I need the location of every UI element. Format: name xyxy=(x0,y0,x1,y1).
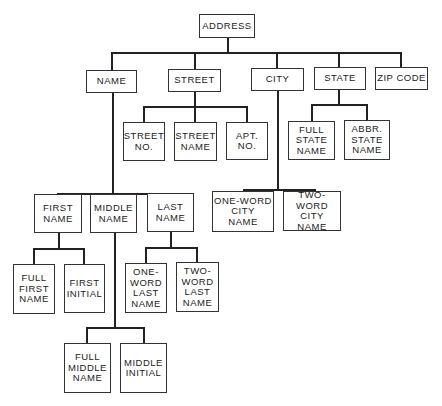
connector xyxy=(86,327,88,344)
node-two-word-last-name: TWO- WORD LAST NAME xyxy=(176,262,219,312)
node-abbr-state-name: ABBR. STATE NAME xyxy=(344,120,390,160)
node-full-first-name: FULL FIRST NAME xyxy=(13,264,55,314)
connector xyxy=(338,89,340,105)
node-full-middle-name: FULL MIDDLE NAME xyxy=(64,343,111,393)
connector xyxy=(277,90,279,190)
connector xyxy=(194,106,196,122)
connector xyxy=(311,104,367,106)
node-state: STATE xyxy=(314,67,366,90)
connector xyxy=(276,52,278,68)
node-zip-code: ZIP CODE xyxy=(375,67,428,90)
node-one-word-city-name: ONE-WORD CITY NAME xyxy=(212,191,274,232)
node-middle-initial: MIDDLE INITIAL xyxy=(120,343,167,393)
node-middle-name: MIDDLE NAME xyxy=(90,194,137,233)
node-street-name: STREET NAME xyxy=(174,122,217,161)
node-first-initial: FIRST INITIAL xyxy=(64,264,105,313)
connector xyxy=(145,247,147,263)
connector xyxy=(33,248,84,250)
connector xyxy=(83,248,85,264)
node-first-name: FIRST NAME xyxy=(34,194,82,233)
node-apt-no: APT. NO. xyxy=(226,122,268,160)
node-street-no: STREET NO. xyxy=(123,122,165,161)
connector xyxy=(86,327,144,329)
connector xyxy=(194,91,196,107)
connector xyxy=(145,247,197,249)
node-street: STREET xyxy=(168,69,221,92)
connector xyxy=(114,232,116,328)
connector xyxy=(366,104,368,121)
connector xyxy=(112,92,114,193)
connector xyxy=(33,248,35,264)
node-last-name: LAST NAME xyxy=(147,193,194,232)
node-one-word-last-name: ONE- WORD LAST NAME xyxy=(125,263,167,313)
connector xyxy=(338,52,340,67)
node-two-word-city-name: TWO-WORD CITY NAME xyxy=(283,191,341,231)
connector xyxy=(227,37,229,53)
connector xyxy=(143,327,145,344)
connector xyxy=(170,231,172,248)
connector xyxy=(311,104,313,121)
connector xyxy=(400,52,402,67)
connector xyxy=(194,52,196,69)
address-hierarchy-diagram: ADDRESS NAME STREET CITY STATE ZIP CODE … xyxy=(0,0,442,406)
node-address: ADDRESS xyxy=(199,14,255,38)
connector xyxy=(111,52,402,54)
node-city: CITY xyxy=(251,68,304,91)
node-full-state-name: FULL STATE NAME xyxy=(288,121,335,160)
connector xyxy=(111,52,113,70)
node-name: NAME xyxy=(86,70,137,93)
connector xyxy=(246,106,248,122)
connector xyxy=(58,232,60,249)
connector xyxy=(143,106,145,122)
connector xyxy=(196,247,198,263)
